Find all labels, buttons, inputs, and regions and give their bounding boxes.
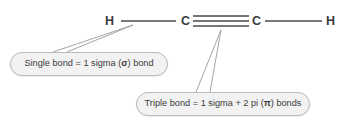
callout-single-text-after: ) bond — [128, 58, 154, 68]
callout-triple-text: Triple bond = 1 sigma + 2 pi (π) bonds — [145, 99, 302, 108]
leader-line-single-a — [53, 25, 133, 52]
callout-triple-text-after: ) bonds — [271, 98, 302, 108]
callout-triple-bond: Triple bond = 1 sigma + 2 pi (π) bonds — [136, 92, 310, 116]
leader-line-single-b — [67, 25, 133, 52]
leader-line-triple-a — [196, 30, 221, 92]
atom-label-carbon-right: C — [252, 15, 261, 28]
callout-triple-text-before: Triple bond = 1 sigma + 2 pi ( — [145, 98, 264, 108]
callout-single-text-before: Single bond = 1 sigma ( — [24, 58, 121, 68]
callout-single-text: Single bond = 1 sigma (σ) bond — [24, 59, 153, 68]
atom-label-hydrogen-left: H — [105, 15, 114, 28]
bond-triple — [193, 16, 249, 26]
leader-line-triple-b — [210, 30, 221, 92]
atom-label-carbon-left: C — [181, 15, 190, 28]
bonding-diagram: H C C H Single bond = 1 sigma (σ) bond T… — [0, 0, 349, 127]
callout-single-bond: Single bond = 1 sigma (σ) bond — [10, 52, 168, 76]
atom-label-hydrogen-right: H — [326, 15, 335, 28]
leader-line-triple — [196, 30, 221, 92]
leader-line-single — [53, 25, 133, 52]
pi-symbol: π — [264, 98, 271, 108]
